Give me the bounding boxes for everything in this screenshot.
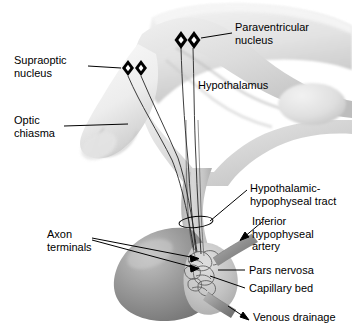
label-paraventricular-nucleus: Paraventricular nucleus — [235, 21, 309, 46]
label-capillary-bed: Capillary bed — [249, 282, 313, 295]
optic-chiasma — [77, 44, 158, 166]
label-optic-chiasma: Optic chiasma — [14, 114, 55, 139]
anatomical-figure: Paraventricular nucleus Supraoptic nucle… — [0, 0, 352, 333]
mammillary-body — [278, 83, 346, 125]
label-axon-terminals: Axon terminals — [47, 228, 92, 253]
label-pars-nervosa: Pars nervosa — [249, 264, 314, 277]
label-venous-drainage: Venous drainage — [253, 311, 336, 324]
label-hypothalamic-hypophyseal-tract: Hypothalamic- hypophyseal tract — [250, 182, 336, 207]
label-inferior-hypophyseal-artery: Inferior hypophyseal artery — [252, 215, 314, 253]
label-supraoptic-nucleus: Supraoptic nucleus — [14, 54, 67, 79]
label-hypothalamus: Hypothalamus — [198, 79, 268, 92]
